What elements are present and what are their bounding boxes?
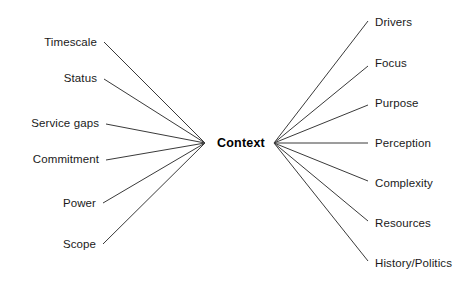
- node-label-drivers: Drivers: [375, 17, 412, 29]
- node-label-resources: Resources: [375, 218, 431, 230]
- node-label-scope: Scope: [63, 239, 96, 251]
- node-label-power: Power: [63, 198, 96, 210]
- spoke-line-focus: [274, 66, 368, 143]
- spoke-line-history-politics: [274, 143, 368, 261]
- node-label-purpose: Purpose: [375, 98, 419, 110]
- spoke-line-timescale: [104, 42, 205, 143]
- node-label-service-gaps: Service gaps: [31, 118, 99, 130]
- hub-label-context: Context: [214, 136, 268, 151]
- node-label-complexity: Complexity: [375, 178, 433, 190]
- node-label-timescale: Timescale: [44, 37, 97, 49]
- node-label-perception: Perception: [375, 138, 431, 150]
- node-label-status: Status: [64, 73, 97, 85]
- spoke-line-complexity: [274, 143, 368, 181]
- spoke-line-resources: [274, 143, 368, 221]
- spoke-line-drivers: [274, 21, 368, 143]
- node-label-history-politics: History/Politics: [375, 258, 452, 270]
- node-label-commitment: Commitment: [33, 154, 99, 166]
- mind-map-diagram: TimescaleStatusService gapsCommitmentPow…: [0, 0, 474, 295]
- node-label-focus: Focus: [375, 58, 407, 70]
